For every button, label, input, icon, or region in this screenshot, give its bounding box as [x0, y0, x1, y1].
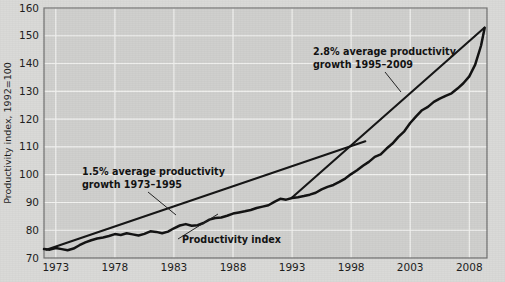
y-axis-title: Productivity index, 1992=100 — [2, 62, 13, 204]
y-tick-label: 80 — [26, 224, 39, 236]
x-tick-label: 1973 — [42, 261, 69, 273]
x-tick-label: 1998 — [338, 261, 365, 273]
y-tick-label: 120 — [19, 113, 39, 125]
x-tick-label: 1983 — [161, 261, 188, 273]
x-tick-label: 1988 — [220, 261, 247, 273]
annotation-trend2-line2: growth 1995–2009 — [313, 59, 413, 70]
annotation-trend1-line1: 1.5% average productivity — [82, 166, 226, 177]
y-tick-label: 90 — [26, 196, 39, 208]
y-tick-label: 160 — [19, 2, 39, 14]
x-tick-label: 1978 — [102, 261, 129, 273]
y-tick-label: 110 — [19, 140, 39, 152]
productivity-chart: 708090100110120130140150160 Productivity… — [0, 0, 505, 282]
y-tick-label: 150 — [19, 29, 39, 41]
annotation-trend1-line2: growth 1973–1995 — [82, 179, 182, 190]
y-tick-label: 140 — [19, 57, 39, 69]
y-tick-label: 70 — [26, 252, 39, 264]
series-label-text: Productivity index — [182, 234, 282, 245]
y-tick-label: 100 — [19, 168, 39, 180]
annotation-trend2-line1: 2.8% average productivity — [313, 46, 457, 57]
y-tick-label: 130 — [19, 85, 39, 97]
x-tick-label: 2003 — [397, 261, 424, 273]
x-tick-label: 1993 — [279, 261, 306, 273]
x-tick-label: 2008 — [456, 261, 483, 273]
chart-figure: 708090100110120130140150160 Productivity… — [0, 0, 505, 282]
